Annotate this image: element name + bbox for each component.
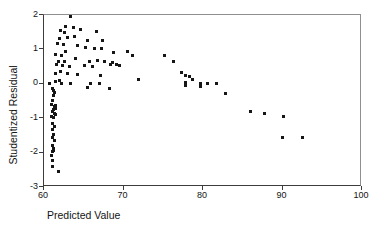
data-point <box>184 84 187 87</box>
data-point <box>52 116 55 119</box>
data-point <box>69 15 72 18</box>
y-axis-tick-label: 2 <box>14 10 38 19</box>
data-point <box>66 72 69 75</box>
data-point <box>73 35 76 38</box>
data-point <box>76 44 79 47</box>
x-axis-tick-label: 90 <box>269 191 295 200</box>
data-point <box>59 70 62 73</box>
y-axis-tick <box>39 83 43 84</box>
data-point <box>68 65 71 68</box>
data-point <box>58 37 61 40</box>
data-point <box>109 63 112 66</box>
data-point <box>101 39 104 42</box>
data-point <box>57 170 60 173</box>
x-axis-tick-label: 80 <box>189 191 215 200</box>
data-point <box>86 86 89 89</box>
data-point <box>224 92 227 95</box>
y-axis-tick <box>39 117 43 118</box>
data-point <box>52 94 55 97</box>
data-point <box>48 82 51 85</box>
data-point <box>74 57 77 60</box>
data-point <box>60 54 63 57</box>
data-point <box>54 113 57 116</box>
data-point <box>61 64 64 67</box>
data-point <box>281 136 284 139</box>
data-point <box>51 165 54 168</box>
data-point <box>98 82 101 85</box>
data-point <box>84 46 87 49</box>
data-point <box>79 28 82 31</box>
data-point <box>131 54 134 57</box>
data-point <box>199 82 202 85</box>
y-axis-tick <box>39 152 43 153</box>
data-point <box>62 43 65 46</box>
y-axis-tick <box>39 48 43 49</box>
data-point <box>57 60 60 63</box>
data-point <box>72 26 75 29</box>
data-point <box>180 71 183 74</box>
data-point <box>86 39 89 42</box>
data-point <box>76 73 79 76</box>
data-point <box>63 60 66 63</box>
data-point <box>60 82 63 85</box>
data-point <box>206 82 209 85</box>
data-point <box>215 82 218 85</box>
data-point <box>53 139 56 142</box>
data-point <box>301 136 304 139</box>
x-axis-title: Predicted Value <box>47 209 120 221</box>
data-point <box>108 87 111 90</box>
data-point <box>184 81 187 84</box>
scatter-plot-figure: Studentized Residual 210-1-2-36070809010… <box>0 0 382 233</box>
data-point <box>50 154 53 157</box>
data-point <box>51 159 54 162</box>
data-point <box>69 82 72 85</box>
data-point <box>51 128 54 131</box>
data-point <box>51 99 54 102</box>
data-point <box>99 74 102 77</box>
data-point <box>112 51 115 54</box>
data-point <box>64 25 67 28</box>
data-point <box>118 64 121 67</box>
x-axis-tick-label: 70 <box>110 191 136 200</box>
y-axis-tick-label: -3 <box>14 182 38 191</box>
data-point <box>172 60 175 63</box>
plot-area <box>43 14 361 186</box>
data-point <box>103 60 106 63</box>
data-point <box>91 65 94 68</box>
data-point <box>88 60 91 63</box>
data-point <box>53 91 56 94</box>
data-point <box>263 112 266 115</box>
y-axis-tick-label: 1 <box>14 44 38 53</box>
data-point <box>282 115 285 118</box>
data-point <box>95 30 98 33</box>
data-point <box>137 78 140 81</box>
data-point <box>199 85 202 88</box>
data-point <box>184 74 187 77</box>
data-point <box>100 47 103 50</box>
data-point <box>53 125 56 128</box>
data-point <box>51 136 54 139</box>
data-point <box>249 110 252 113</box>
data-point <box>56 42 59 45</box>
data-point <box>54 80 57 83</box>
data-point <box>59 29 62 32</box>
data-point <box>83 64 86 67</box>
data-point <box>89 82 92 85</box>
data-point <box>93 47 96 50</box>
data-point <box>54 53 57 56</box>
y-axis-tick-label: -2 <box>14 147 38 156</box>
data-point <box>96 59 99 62</box>
y-axis-tick-label: 0 <box>14 78 38 87</box>
x-axis-tick-label: 100 <box>348 191 374 200</box>
y-axis-tick-label: -1 <box>14 113 38 122</box>
x-axis-tick-label: 60 <box>30 191 56 200</box>
y-axis-tick <box>39 14 43 15</box>
data-point <box>55 63 58 66</box>
data-point <box>66 36 69 39</box>
data-point <box>64 50 67 53</box>
data-point <box>163 54 166 57</box>
data-point <box>63 31 66 34</box>
data-point <box>126 50 129 53</box>
data-point <box>54 72 57 75</box>
data-point <box>191 78 194 81</box>
